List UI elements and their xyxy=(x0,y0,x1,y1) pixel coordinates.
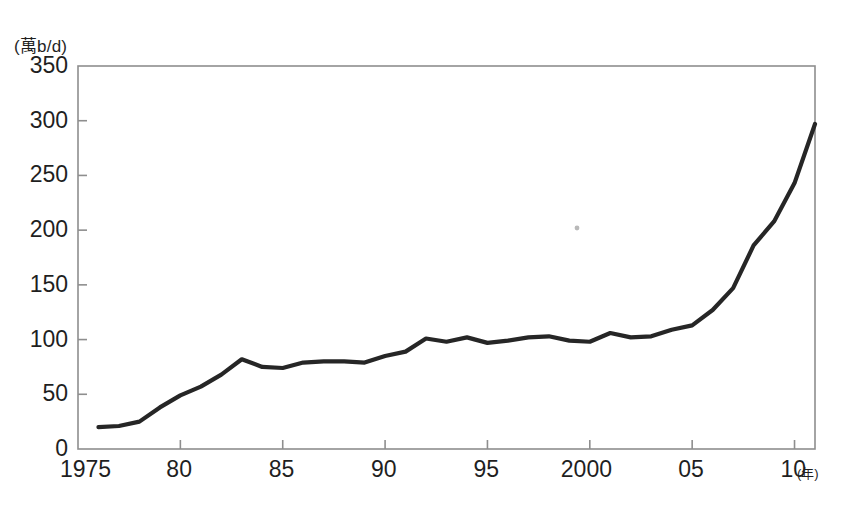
chart-container: (萬b/d) (年) 050100150200250300350 1975808… xyxy=(0,0,841,507)
scan-artifact-speck xyxy=(575,226,580,231)
plot-area xyxy=(0,0,841,507)
data-line-series-0 xyxy=(98,124,815,427)
x-axis-ticks xyxy=(180,440,794,449)
y-axis-ticks xyxy=(78,121,87,395)
